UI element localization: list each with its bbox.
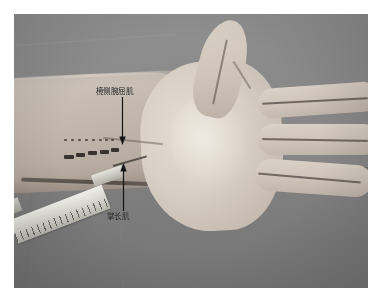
down-arrow-icon — [118, 97, 127, 145]
injection-site-block — [100, 150, 109, 154]
injection-site-block — [111, 148, 119, 152]
annotation-label-palmaris-longus: 掌长肌 — [107, 213, 129, 221]
anatomical-photograph — [14, 14, 368, 288]
injection-site-block — [64, 155, 74, 159]
injection-site-block — [76, 153, 85, 157]
up-arrow-icon — [119, 163, 128, 211]
annotation-label-flexor-carpi-radialis: 樈侧腕屈肌 — [96, 88, 133, 96]
figure-root: 樈侧腕屈肌 掌长肌 — [0, 0, 382, 301]
injection-site-block — [88, 151, 97, 155]
